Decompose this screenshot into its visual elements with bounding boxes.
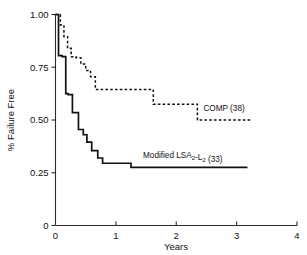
- series-annotation-label: Modified LSA2-L2 (33): [143, 151, 223, 164]
- x-axis-ticks: 01234: [53, 222, 300, 241]
- y-tick-label: 0.50: [30, 114, 49, 125]
- x-tick-label: 0: [53, 230, 58, 241]
- x-tick-label: 3: [234, 230, 239, 241]
- y-tick-label: 1.00: [30, 9, 49, 20]
- chart-canvas: 00.250.500.751.00 01234 Years % Failure …: [0, 0, 307, 255]
- series-annotation-label: COMP (38): [203, 104, 245, 113]
- survival-chart: 00.250.500.751.00 01234 Years % Failure …: [0, 0, 307, 255]
- series-line-modified-lsa2-l2: [56, 15, 248, 168]
- chart-axes: [56, 14, 298, 226]
- y-tick-label: 0.75: [30, 62, 49, 73]
- y-axis-title: % Failure Free: [5, 89, 16, 151]
- y-tick-label: 0.25: [30, 167, 49, 178]
- chart-series-group: [56, 15, 252, 168]
- x-tick-label: 4: [294, 230, 299, 241]
- y-axis-ticks: 00.250.500.751.00: [30, 9, 56, 231]
- x-axis-title: Years: [164, 241, 188, 252]
- y-tick-label: 0: [43, 220, 48, 231]
- x-tick-label: 2: [174, 230, 179, 241]
- x-tick-label: 1: [113, 230, 118, 241]
- chart-annotations: COMP (38)Modified LSA2-L2 (33): [143, 104, 245, 164]
